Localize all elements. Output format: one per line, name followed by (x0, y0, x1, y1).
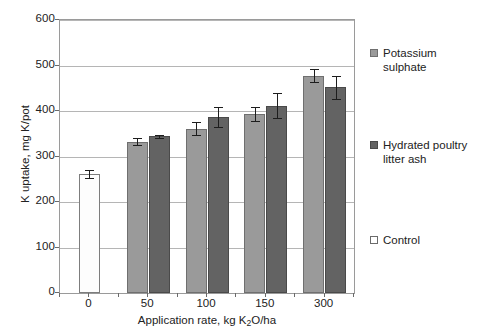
y-tick-label: 400 (9, 104, 55, 115)
error-bar-cap-lower (214, 127, 223, 128)
bar-sulphate-300 (303, 76, 324, 293)
legend-entry-sulphate: Potassium sulphate (370, 47, 478, 74)
bar-sulphate-100 (186, 129, 207, 293)
chart-legend: Potassium sulphateHydrated poultry litte… (370, 19, 478, 292)
error-bar-cap-lower (155, 138, 164, 139)
y-tick-mark (55, 110, 59, 111)
error-bar-cap-lower (251, 121, 260, 122)
y-tick-label: 300 (9, 150, 55, 161)
plot-area (59, 19, 355, 294)
bar-ash-300 (325, 87, 346, 293)
bar-ash-100 (208, 117, 229, 293)
y-tick-label: 500 (9, 59, 55, 70)
x-axis-title-text-tail: O/ha (251, 314, 276, 326)
error-bar-cap-upper (251, 107, 260, 108)
legend-swatch-icon (370, 49, 378, 57)
x-tick-label: 100 (176, 297, 236, 309)
error-bar-control-0 (89, 170, 90, 178)
error-bar-cap-lower (85, 178, 94, 179)
error-bar-sulphate-300 (314, 69, 315, 83)
error-bar-ash-300 (336, 76, 337, 100)
bar-ash-150 (266, 106, 287, 293)
legend-swatch-icon (370, 141, 378, 149)
legend-entry-ash: Hydrated poultry litter ash (370, 139, 478, 166)
bar-sulphate-50 (127, 142, 148, 294)
x-tick-mark-boundary (235, 293, 236, 297)
error-bar-sulphate-100 (196, 122, 197, 135)
error-bar-cap-upper (273, 93, 282, 94)
x-tick-mark (147, 293, 148, 297)
error-bar-cap-lower (133, 145, 142, 146)
y-tick-mark (55, 19, 59, 20)
bar-ash-50 (149, 136, 170, 293)
x-tick-mark-boundary (353, 293, 354, 297)
x-axis-title: Application rate, kg K2O/ha (59, 314, 355, 326)
error-bar-cap-upper (155, 135, 164, 136)
y-tick-mark (55, 156, 59, 157)
legend-label: Control (383, 234, 420, 248)
x-tick-label: 300 (294, 297, 354, 309)
x-axis-title-subscript: 2 (247, 318, 252, 328)
error-bar-ash-150 (277, 93, 278, 118)
error-bar-cap-lower (192, 135, 201, 136)
y-tick-label: 0 (9, 286, 55, 297)
x-tick-mark (206, 293, 207, 297)
bar-sulphate-150 (244, 114, 265, 293)
error-bar-cap-upper (332, 76, 341, 77)
legend-swatch-icon (370, 236, 378, 244)
y-tick-label: 600 (9, 13, 55, 24)
x-tick-mark-boundary (294, 293, 295, 297)
y-tick-mark (55, 65, 59, 66)
error-bar-cap-upper (192, 122, 201, 123)
error-bar-sulphate-50 (137, 138, 138, 145)
x-tick-label: 50 (117, 297, 177, 309)
legend-label: Hydrated poultry litter ash (383, 139, 478, 166)
x-tick-mark (265, 293, 266, 297)
y-tick-label: 100 (9, 241, 55, 252)
error-bar-ash-100 (218, 107, 219, 127)
y-tick-mark (55, 247, 59, 248)
y-tick-label: 200 (9, 195, 55, 206)
x-tick-label: 0 (58, 297, 118, 309)
error-bar-cap-lower (310, 82, 319, 83)
error-bar-cap-lower (273, 118, 282, 119)
bar-chart-figure: K uptake, mg K/pot 0100200300400500600 0… (0, 0, 479, 335)
x-tick-mark-boundary (118, 293, 119, 297)
error-bar-cap-upper (310, 69, 319, 70)
x-axis-tick-labels: 050100150300 (59, 297, 355, 313)
x-tick-mark-boundary (59, 293, 60, 297)
error-bar-cap-lower (332, 99, 341, 100)
y-axis-tick-labels: 0100200300400500600 (5, 19, 55, 292)
gridline (60, 66, 354, 67)
error-bar-cap-upper (214, 107, 223, 108)
bar-control-0 (79, 174, 100, 293)
y-tick-mark (55, 201, 59, 202)
x-axis-title-text: Application rate, kg K (138, 314, 247, 326)
error-bar-cap-upper (85, 170, 94, 171)
x-tick-mark (88, 293, 89, 297)
x-tick-mark-boundary (177, 293, 178, 297)
gridline (60, 20, 354, 21)
legend-label: Potassium sulphate (383, 47, 478, 74)
legend-entry-control: Control (370, 234, 478, 248)
error-bar-cap-upper (133, 138, 142, 139)
x-tick-label: 150 (235, 297, 295, 309)
error-bar-sulphate-150 (255, 107, 256, 122)
x-tick-mark (324, 293, 325, 297)
